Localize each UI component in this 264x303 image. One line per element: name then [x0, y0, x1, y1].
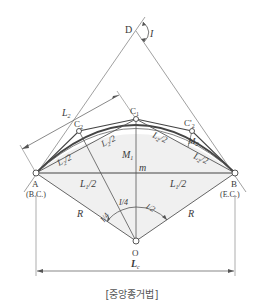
label-L1-half-left: L1/2 — [79, 178, 96, 190]
diagram-caption: [중앙종거법] — [0, 286, 264, 301]
label-M2: M2 — [187, 136, 199, 147]
arrow-icon — [228, 269, 234, 273]
label-C2-prime: C'2 — [184, 118, 195, 129]
label-EC: (E.C.) — [220, 190, 240, 199]
point-B — [232, 170, 238, 176]
label-B: B — [231, 179, 237, 189]
label-I4-right: I/4 — [118, 198, 128, 207]
label-angle-I: I — [149, 28, 154, 39]
label-R-right: R — [187, 208, 194, 219]
arrow-icon — [37, 269, 43, 273]
point-A — [33, 170, 39, 176]
arrow-icon — [22, 144, 29, 149]
middle-ordinate-method-diagram: D I L2 C1 C2 C'2 L2/2 L2/2 L2/2 L2/2 M1 … — [0, 0, 264, 303]
label-BC: (B.C.) — [26, 190, 46, 199]
label-D: D — [125, 24, 132, 35]
L2-extension-left — [20, 145, 36, 173]
label-L1-half-right: L1/2 — [169, 178, 186, 190]
label-C1: C1 — [130, 106, 139, 117]
point-C2-prime — [190, 129, 195, 134]
label-L2: L2 — [61, 107, 71, 119]
label-O: O — [132, 248, 139, 258]
point-C1 — [134, 117, 139, 122]
label-R-left: R — [76, 208, 83, 219]
label-C2: C2 — [74, 119, 83, 130]
label-m: m — [139, 162, 146, 173]
label-A: A — [32, 179, 39, 189]
label-Lc: Lc — [130, 258, 140, 270]
point-O — [133, 238, 139, 244]
